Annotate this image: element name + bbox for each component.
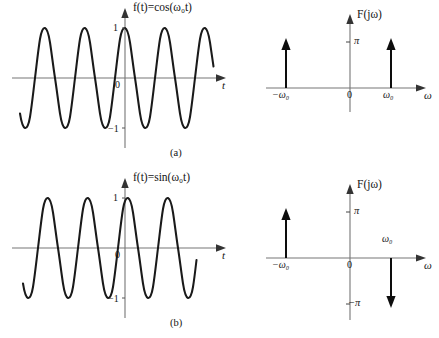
panel-b-spectrum-label: F(jω) [357,179,382,191]
panel-a-label-negative-omega0: −ω₀ [272,90,289,100]
panel-a-pi-tick-label: π [354,36,359,47]
panel-b-origin-label: 0 [115,250,120,260]
panel-a-tick-plus-one: 1 [113,23,118,33]
panel-a-function-label: f(t)=cos(ω₀t) [133,2,192,14]
panel-a-axis-label-t: t [222,80,225,91]
panel-a-origin-label: 0 [115,80,120,90]
panel-b-axis-label-omega: ω [424,260,432,271]
panel-b-time-domain-plot [0,170,240,330]
panel-a-spectrum-label: F(jω) [357,9,382,21]
panel-b-tick-plus-one: 1 [113,193,118,203]
panel-a-frequency-domain-plot [258,0,439,160]
panel-b-tick-minus-one: −1 [108,294,119,304]
panel-a-freq-origin-label: 0 [347,90,352,100]
panel-b-freq-origin-label: 0 [347,260,352,270]
panel-b-axis-label-t: t [222,250,225,261]
panel-b-function-label: f(t)=sin(ω₀t) [133,172,190,184]
panel-b-negative-pi-tick-label: −π [348,298,360,309]
axis-omega-b [266,254,426,261]
panel-b-frequency-domain-plot [258,170,439,335]
panel-b-tag: (b) [170,318,182,329]
figure-fourier-transform-pairs: f(t)=cos(ω₀t) 1 0 −1 t (a) F(jω) π −ω₀ 0… [0,0,439,338]
impulse-positive-omega0-b [386,258,395,308]
panel-a-axis-label-omega: ω [424,90,432,101]
panel-a-label-positive-omega0: ω₀ [383,90,394,100]
axis-omega-a [266,84,426,91]
impulse-negative-omega0-a [281,38,290,88]
impulse-negative-omega0-b [281,208,290,258]
panel-b-label-positive-omega0: ω₀ [382,234,393,244]
impulse-positive-omega0-a [386,38,395,88]
panel-b-pi-tick-label: π [354,206,359,217]
panel-b-label-negative-omega0: −ω₀ [272,260,289,270]
panel-a-tick-minus-one: −1 [108,124,119,134]
panel-a-tag: (a) [170,148,182,159]
panel-a-time-domain-plot [0,0,240,160]
